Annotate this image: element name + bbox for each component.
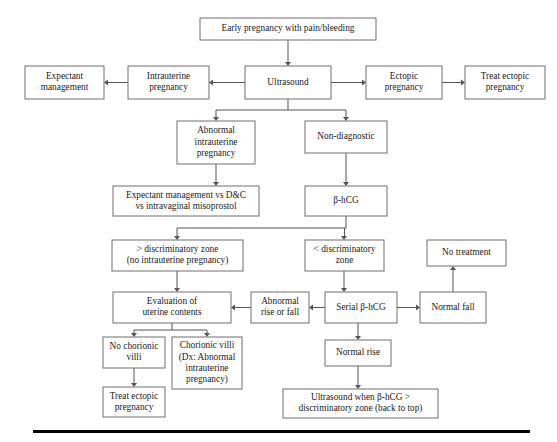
node-label-line: Ectopic (390, 71, 418, 81)
node-label-line: Treat ectopic (481, 71, 529, 81)
node-label-line: Non-diagnostic (317, 131, 374, 141)
connector-ultrasound-to-ectopic (331, 80, 366, 86)
arrowhead (285, 62, 291, 66)
arrowhead (204, 333, 210, 337)
node-label-line: pregnancy (197, 148, 236, 158)
node-evaluation-uterine-contents: Evaluation ofuterine contents (113, 292, 231, 323)
connector-no-chorionic-to-treat (131, 368, 137, 387)
node-label-line: pregnancy (115, 402, 154, 412)
node-label-line: β-hCG (333, 195, 359, 205)
node-ectopic-pregnancy: Ectopicpregnancy (366, 66, 442, 99)
flowchart-canvas: Early pregnancy with pain/bleedingUltras… (0, 0, 557, 442)
node-label-line: Intrauterine (147, 71, 190, 81)
node-intrauterine-pregnancy: Intrauterinepregnancy (128, 66, 209, 99)
bottom-horizontal-rule (33, 430, 530, 433)
connector-abnormal-iup-to-expectant-vs (213, 164, 219, 186)
node-beta-hcg: β-hCG (305, 186, 387, 216)
connector-greater-zone-to-evaluation (174, 271, 180, 292)
node-treat-ectopic-pregnancy-bottom: Treat ectopicpregnancy (103, 387, 165, 417)
arrowhead (174, 236, 180, 240)
node-label-line: No chorionic (110, 341, 159, 351)
node-expectant-management: Expectantmanagement (25, 66, 104, 99)
arrowhead (309, 305, 313, 311)
node-label-line: < discriminatory (314, 244, 376, 254)
arrowhead (231, 305, 235, 311)
node-label-line: Expectant management vs D&C (126, 190, 246, 200)
node-label-line: uterine contents (142, 307, 201, 317)
arrowhead (362, 80, 366, 86)
node-less-discriminatory-zone: < discriminatoryzone (305, 240, 384, 271)
node-label-line: Normal fall (431, 302, 475, 312)
node-expectant-vs-dc: Expectant management vs D&Cvs intravagin… (113, 186, 259, 216)
node-label-line: pregnancy (385, 82, 424, 92)
node-ultrasound-when-beta-hcg: Ultrasound when β-hCG >discriminatory zo… (283, 389, 438, 418)
node-label-line: (Dx: Abnormal (179, 352, 236, 363)
node-label-line: Expectant (46, 71, 84, 81)
connector-bhcg-split (177, 216, 346, 236)
connector-to-non-diagnostic (343, 117, 349, 121)
node-abnormal-intrauterine-pregnancy: Abnormalintrauterinepregnancy (177, 121, 255, 164)
arrowhead (104, 80, 108, 86)
node-label-line: Ultrasound when β-hCG > (311, 392, 410, 402)
node-chorionic-villi: Chorionic villi(Dx: Abnormalintrauterine… (172, 337, 242, 389)
arrowhead (213, 117, 219, 121)
connector-non-diagnostic-to-bhcg (343, 153, 349, 186)
node-label-line: Serial β-hCG (336, 302, 386, 312)
connector-ultrasound-to-intrauterine (209, 80, 245, 86)
node-label-line: discriminatory zone (back to top) (299, 403, 423, 414)
arrowhead (341, 236, 347, 240)
node-normal-rise: Normal rise (325, 340, 391, 366)
node-no-treatment: No treatment (427, 240, 506, 266)
connector-normal-rise-to-ultrasound-when (355, 366, 361, 389)
flowchart-page: Early pregnancy with pain/bleedingUltras… (0, 0, 557, 442)
connector-to-less-zone (341, 236, 347, 240)
arrowhead (341, 288, 347, 292)
connector-less-zone-to-serial (341, 271, 347, 292)
node-abnormal-rise-or-fall: Abnormalrise or fall (251, 292, 309, 323)
node-non-diagnostic: Non-diagnostic (305, 121, 387, 153)
connector-to-greater-zone (174, 236, 180, 240)
node-label-line: Treat ectopic (110, 391, 158, 401)
connector-evaluation-split (134, 323, 207, 333)
node-label-line: villi (127, 352, 142, 362)
arrowhead (209, 80, 213, 86)
connector-serial-to-normal-fall (397, 305, 420, 311)
node-label-line: Chorionic villi (180, 340, 235, 350)
arrowhead (174, 288, 180, 292)
connector-serial-to-abnormal-rise (309, 305, 325, 311)
node-no-chorionic-villi: No chorionicvilli (103, 337, 165, 368)
node-label-line: Normal rise (336, 347, 380, 357)
node-normal-fall: Normal fall (420, 292, 486, 323)
node-label-line: pregnancy (486, 82, 525, 92)
connector-to-no-chorionic (131, 333, 137, 337)
connector-ultrasound-split (216, 99, 346, 117)
node-ultrasound: Ultrasound (245, 66, 331, 99)
node-label-line: zone (336, 255, 354, 265)
connector-early-to-ultrasound (285, 40, 291, 66)
node-label-line: intrauterine (195, 137, 238, 147)
node-label-line: intrauterine (186, 363, 229, 373)
connector-normal-fall-to-no-treatment (450, 266, 456, 292)
connector-to-abnormal-iup (213, 117, 219, 121)
node-label-line: Abnormal (197, 125, 235, 135)
connector-to-chorionic (204, 333, 210, 337)
arrowhead (213, 182, 219, 186)
node-early-pregnancy: Early pregnancy with pain/bleeding (200, 18, 376, 40)
node-label-line: Early pregnancy with pain/bleeding (222, 23, 355, 33)
node-greater-discriminatory-zone: > discriminatory zone(no intrauterine pr… (112, 240, 243, 271)
arrowhead (343, 117, 349, 121)
node-label-line: rise or fall (261, 307, 300, 317)
node-treat-ectopic-pregnancy-top: Treat ectopicpregnancy (465, 66, 545, 99)
arrowhead (450, 266, 456, 270)
arrowhead (355, 385, 361, 389)
nodes-layer: Early pregnancy with pain/bleedingUltras… (25, 18, 545, 418)
node-label-line: management (41, 82, 89, 92)
arrowhead (461, 80, 465, 86)
connector-ectopic-to-treat (442, 80, 465, 86)
node-label-line: Evaluation of (147, 296, 198, 306)
arrowhead (343, 182, 349, 186)
connector-serial-to-normal-rise (355, 323, 361, 340)
node-label-line: No treatment (442, 247, 491, 257)
node-label-line: > discriminatory zone (137, 244, 219, 254)
arrowhead (355, 336, 361, 340)
